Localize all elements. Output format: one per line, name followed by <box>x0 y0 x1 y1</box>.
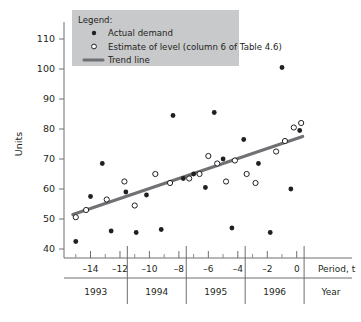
data-point-estimate-of-level <box>291 125 296 130</box>
data-point-estimate-of-level <box>122 179 127 184</box>
year-band-label: 1993 <box>84 287 107 297</box>
data-point-actual-demand <box>109 229 114 234</box>
data-point-actual-demand <box>280 65 285 70</box>
data-point-estimate-of-level <box>153 171 158 176</box>
data-point-actual-demand <box>191 172 196 177</box>
year-band-label: 1994 <box>145 287 168 297</box>
data-point-estimate-of-level <box>187 176 192 181</box>
data-point-estimate-of-level <box>197 171 202 176</box>
legend-item-label: Estimate of level (column 6 of Table 4.6… <box>108 42 282 52</box>
data-point-estimate-of-level <box>244 171 249 176</box>
y-axis-tick-label: 90 <box>43 93 55 104</box>
x-axis-tick-label: –10 <box>141 264 157 274</box>
data-point-actual-demand <box>73 239 78 244</box>
data-point-estimate-of-level <box>215 161 220 166</box>
scatter-chart: 405060708090100110Units–14–12–10–8–6–4–2… <box>0 0 361 322</box>
data-point-actual-demand <box>230 226 235 231</box>
data-point-estimate-of-level <box>104 197 109 202</box>
y-axis-tick-label: 40 <box>43 243 55 254</box>
data-point-actual-demand <box>288 187 293 192</box>
data-point-actual-demand <box>221 157 226 162</box>
data-point-actual-demand <box>203 185 208 190</box>
y-axis-tick-label: 100 <box>37 63 55 74</box>
x-axis-title: Period, t <box>318 264 356 274</box>
data-point-actual-demand <box>212 110 217 115</box>
y-axis-title: Units <box>13 132 24 156</box>
legend-item-label: Trend line <box>107 55 150 65</box>
y-axis-tick-label: 50 <box>43 213 55 224</box>
data-point-actual-demand <box>134 230 139 235</box>
data-point-actual-demand <box>181 176 186 181</box>
data-point-estimate-of-level <box>299 120 304 125</box>
data-point-actual-demand <box>88 194 93 199</box>
y-axis-tick-label: 70 <box>43 153 55 164</box>
data-point-actual-demand <box>297 128 302 133</box>
x-axis-tick-label: –6 <box>203 264 214 274</box>
legend-marker-filled-circle <box>92 31 96 35</box>
data-point-estimate-of-level <box>167 180 172 185</box>
legend-item-label: Actual demand <box>108 28 173 38</box>
y-axis-tick-label: 80 <box>43 123 55 134</box>
data-point-actual-demand <box>100 161 105 166</box>
chart-container: 405060708090100110Units–14–12–10–8–6–4–2… <box>0 0 361 322</box>
data-point-actual-demand <box>241 137 246 142</box>
x-axis-tick-label: –2 <box>262 264 272 274</box>
legend-title: Legend: <box>78 15 112 25</box>
year-band-label: 1996 <box>263 287 286 297</box>
y-axis-tick-label: 110 <box>37 33 55 44</box>
data-point-actual-demand <box>171 113 176 118</box>
x-axis-tick-label: –14 <box>83 264 99 274</box>
data-point-estimate-of-level <box>253 180 258 185</box>
data-point-estimate-of-level <box>274 149 279 154</box>
data-point-estimate-of-level <box>223 179 228 184</box>
data-point-actual-demand <box>144 193 149 198</box>
data-point-estimate-of-level <box>83 207 88 212</box>
data-point-estimate-of-level <box>232 158 237 163</box>
data-point-estimate-of-level <box>73 215 78 220</box>
data-point-actual-demand <box>256 161 261 166</box>
y-axis-tick-label: 60 <box>43 183 55 194</box>
data-point-actual-demand <box>268 230 273 235</box>
year-band-label: 1995 <box>204 287 227 297</box>
data-point-estimate-of-level <box>206 153 211 158</box>
trend-line <box>73 137 303 215</box>
x-axis-tick-label: –12 <box>112 264 128 274</box>
data-point-estimate-of-level <box>282 138 287 143</box>
data-point-estimate-of-level <box>132 203 137 208</box>
second-axis-label: Year <box>320 287 340 297</box>
data-point-actual-demand <box>123 190 128 195</box>
x-axis-tick-label: –8 <box>174 264 185 274</box>
x-axis-tick-label: 0 <box>294 264 300 274</box>
data-point-actual-demand <box>159 227 164 232</box>
x-axis-tick-label: –4 <box>233 264 244 274</box>
legend-marker-open-circle <box>92 44 97 49</box>
